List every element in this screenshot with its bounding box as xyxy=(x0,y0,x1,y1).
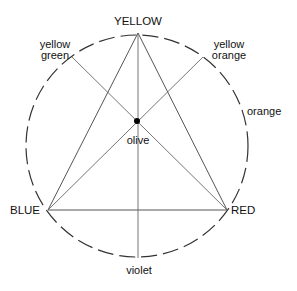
label-yellow-orange-2: orange xyxy=(212,49,246,61)
label-yellow-green-2: green xyxy=(41,49,69,61)
label-red: RED xyxy=(231,204,255,216)
olive-center-dot xyxy=(134,118,140,124)
color-wheel-circle xyxy=(26,35,248,257)
label-orange: orange xyxy=(247,105,281,117)
label-violet: violet xyxy=(126,264,152,276)
label-olive: olive xyxy=(127,134,150,146)
color-triangle-diagram: YELLOW BLUE RED yellow green yellow oran… xyxy=(0,0,297,291)
label-yellow: YELLOW xyxy=(114,15,162,27)
label-blue: BLUE xyxy=(10,204,40,216)
